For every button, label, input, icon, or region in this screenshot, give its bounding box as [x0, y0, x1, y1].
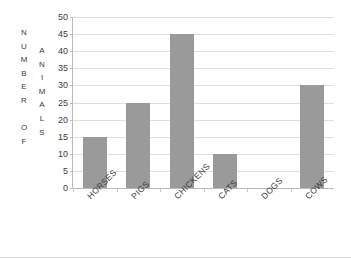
y-axis-tick-label: 40 — [58, 46, 68, 56]
bar-chickens — [170, 34, 194, 188]
bar-slot — [247, 17, 291, 188]
x-axis-tickmark — [204, 188, 205, 192]
y-axis-tick-label: 50 — [58, 12, 68, 22]
x-axis-tickmark — [117, 188, 118, 192]
y-axis-tick-label: 25 — [58, 98, 68, 108]
bar-slot — [73, 17, 117, 188]
x-axis-tickmark — [73, 188, 74, 192]
y-axis-tick-label: 35 — [58, 63, 68, 73]
y-axis-title-number-of: N U M B E R O F — [18, 26, 30, 148]
x-axis-tickmark — [160, 188, 161, 192]
y-axis-title-animals: A N I M A L S — [36, 44, 48, 139]
y-axis-tick-label: 10 — [58, 149, 68, 159]
y-axis-tick-label: 45 — [58, 29, 68, 39]
x-axis-tickmark — [247, 188, 248, 192]
chart-image-frame: N U M B E R O F A N I M A L S 0510152025… — [0, 0, 351, 258]
bar-cows — [300, 85, 324, 188]
bar-slot — [291, 17, 335, 188]
bar-slot — [160, 17, 204, 188]
x-axis-tickmark — [291, 188, 292, 192]
y-axis-tick-label: 15 — [58, 132, 68, 142]
bar-slot — [204, 17, 248, 188]
y-axis-tick-label: 0 — [63, 183, 68, 193]
bar-pigs — [126, 103, 150, 189]
y-axis-tick-label: 30 — [58, 80, 68, 90]
bar-slot — [117, 17, 161, 188]
y-axis-tick-label: 20 — [58, 115, 68, 125]
y-axis-tick-label: 5 — [63, 166, 68, 176]
